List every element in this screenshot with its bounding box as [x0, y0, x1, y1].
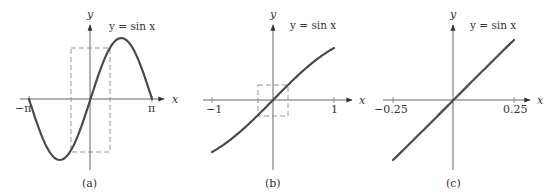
caption-a: (a)	[82, 177, 97, 190]
panel-a: y x −π π y = sin x (a)	[15, 8, 179, 190]
equation-label-c: y = sin x	[469, 19, 516, 31]
x-axis-label-a: x	[172, 93, 179, 106]
equation-label-b: y = sin x	[289, 19, 336, 31]
x-axis-label-b: x	[359, 94, 366, 107]
panel-c: y x −0.25 0.25 y = sin x (c)	[374, 8, 544, 190]
tick-label-0-25: 0.25	[503, 103, 528, 116]
caption-c: (c)	[446, 177, 461, 190]
caption-b: (b)	[265, 177, 281, 190]
tick-label-neg-0-25: −0.25	[374, 103, 408, 116]
equation-label-a: y = sin x	[108, 20, 155, 32]
x-axis-label-c: x	[537, 94, 544, 107]
tick-label-pi: π	[148, 102, 155, 115]
tick-label-neg-pi: −π	[15, 102, 31, 115]
panel-b: y x −1 1 y = sin x (b)	[203, 8, 366, 190]
tick-label-neg-1: −1	[206, 103, 222, 116]
y-axis-label-c: y	[449, 8, 457, 21]
y-axis-label-a: y	[86, 8, 94, 21]
sine-zoom-figure: y x −π π y = sin x (a) y x −1 1 y = sin …	[0, 0, 559, 196]
tick-label-1: 1	[331, 103, 338, 116]
y-axis-label-b: y	[269, 8, 277, 21]
